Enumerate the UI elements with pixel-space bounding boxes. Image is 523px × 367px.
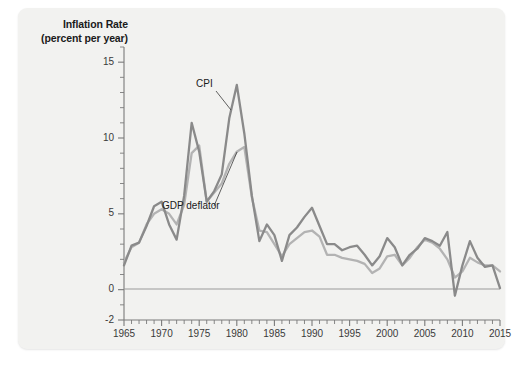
figure-container: Inflation Rate (percent per year) -20510… <box>0 0 523 367</box>
cpi-series-label: CPI <box>196 78 213 89</box>
x-tick-label: 1975 <box>179 328 219 339</box>
y-tick-label: 5 <box>86 207 114 218</box>
x-tick-label: 2010 <box>442 328 482 339</box>
x-tick-label: 1990 <box>292 328 332 339</box>
cpi-leader-line <box>216 91 231 110</box>
x-tick-label: 2005 <box>405 328 445 339</box>
x-tick-label: 1970 <box>142 328 182 339</box>
y-tick-label: 0 <box>86 283 114 294</box>
x-tick-label: 1995 <box>330 328 370 339</box>
series-line-cpi <box>124 85 500 296</box>
x-tick-label: 2015 <box>480 328 520 339</box>
axis-ticks <box>118 47 500 326</box>
x-tick-label: 1980 <box>217 328 257 339</box>
y-tick-label: 10 <box>86 132 114 143</box>
y-tick-label: -2 <box>86 314 114 325</box>
x-tick-label: 1985 <box>254 328 294 339</box>
line-chart <box>0 0 523 367</box>
y-tick-label: 15 <box>86 56 114 67</box>
gdp-deflator-leader-line <box>214 152 237 206</box>
x-tick-label: 1965 <box>104 328 144 339</box>
gdp-deflator-series-label: GDP deflator <box>162 200 220 211</box>
x-tick-label: 2000 <box>367 328 407 339</box>
